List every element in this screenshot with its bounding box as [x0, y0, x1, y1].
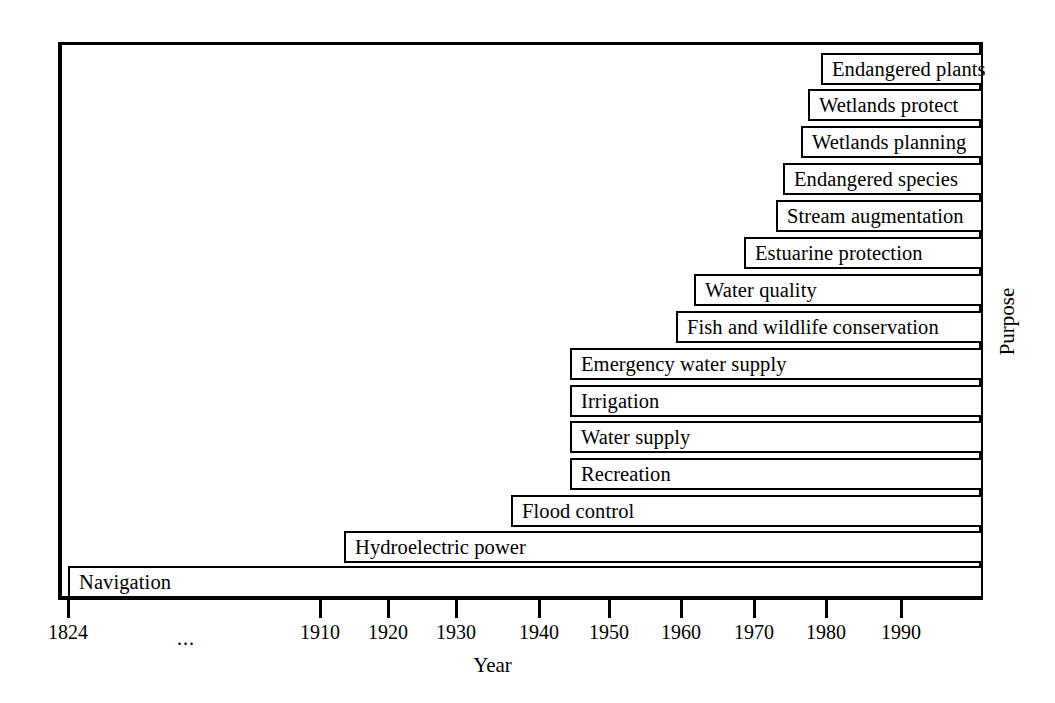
x-tick-label: 1970 [734, 622, 774, 642]
y-axis-title: Purpose [988, 42, 1028, 600]
x-tick-label: 1940 [519, 622, 559, 642]
x-tick-label: 1990 [881, 622, 921, 642]
x-tick-label: ... [177, 628, 195, 648]
timeline-bar: Endangered plants [821, 53, 983, 85]
timeline-bar-label: Estuarine protection [746, 243, 932, 264]
x-axis: Year 1824...1910192019301940195019601970… [0, 600, 1055, 703]
timeline-bar-label: Endangered plants [823, 59, 995, 80]
timeline-bar-label: Hydroelectric power [346, 537, 535, 558]
timeline-bar: Emergency water supply [570, 348, 983, 380]
x-tick-mark [753, 600, 756, 618]
x-tick-mark [900, 600, 903, 618]
timeline-bar-label: Water quality [696, 280, 826, 301]
timeline-bar-label: Endangered species [785, 169, 967, 190]
timeline-chart: Endangered plantsWetlands protectWetland… [0, 0, 1055, 703]
x-tick-mark [825, 600, 828, 618]
timeline-bar: Estuarine protection [744, 237, 983, 269]
x-tick-label: 1930 [436, 622, 476, 642]
timeline-bar: Water supply [570, 421, 983, 453]
timeline-bar-label: Wetlands planning [803, 132, 975, 153]
timeline-bar: Fish and wildlife conservation [676, 311, 983, 343]
x-axis-title: Year [0, 655, 1055, 676]
timeline-bar: Endangered species [783, 163, 983, 195]
timeline-bar: Hydroelectric power [344, 531, 983, 563]
timeline-bar: Stream augmentation [776, 200, 983, 232]
x-axis-title-text: Year [473, 653, 512, 677]
x-tick-label: 1960 [661, 622, 701, 642]
timeline-bar-label: Emergency water supply [572, 354, 796, 375]
timeline-bar-label: Recreation [572, 464, 680, 485]
timeline-bar-label: Fish and wildlife conservation [678, 317, 948, 338]
bars-layer: Endangered plantsWetlands protectWetland… [0, 0, 1055, 703]
timeline-bar-label: Wetlands protect [810, 95, 967, 116]
x-tick-mark [608, 600, 611, 618]
y-axis-title-text: Purpose [998, 287, 1019, 355]
timeline-bar-label: Stream augmentation [778, 206, 973, 227]
timeline-bar: Water quality [694, 274, 983, 306]
timeline-bar: Navigation [68, 566, 983, 598]
timeline-bar-label: Irrigation [572, 391, 668, 412]
x-tick-label: 1910 [300, 622, 340, 642]
x-tick-label: 1980 [806, 622, 846, 642]
timeline-bar: Irrigation [570, 385, 983, 417]
timeline-bar-label: Flood control [513, 501, 643, 522]
x-tick-mark [67, 600, 70, 618]
timeline-bar-label: Water supply [572, 427, 699, 448]
x-tick-mark [319, 600, 322, 618]
x-tick-mark [387, 600, 390, 618]
x-tick-mark [680, 600, 683, 618]
x-tick-label: 1920 [368, 622, 408, 642]
timeline-bar: Flood control [511, 495, 983, 527]
x-tick-mark [538, 600, 541, 618]
x-tick-mark [455, 600, 458, 618]
timeline-bar: Recreation [570, 458, 983, 490]
timeline-bar: Wetlands protect [808, 89, 983, 121]
timeline-bar-label: Navigation [70, 572, 180, 593]
timeline-bar: Wetlands planning [801, 126, 983, 158]
x-tick-label: 1824 [48, 622, 88, 642]
x-tick-label: 1950 [589, 622, 629, 642]
